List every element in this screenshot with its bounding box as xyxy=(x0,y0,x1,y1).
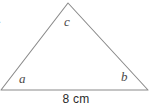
base-length-label: 8 cm xyxy=(0,93,152,106)
angle-label-c: c xyxy=(64,15,70,28)
triangle-figure: . c a b 8 cm xyxy=(0,0,152,109)
angle-label-a: a xyxy=(19,72,26,85)
angle-label-b: b xyxy=(121,70,128,83)
